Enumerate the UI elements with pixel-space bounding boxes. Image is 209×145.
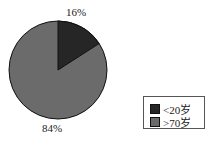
legend-swatch-icon <box>150 117 160 127</box>
legend-item-over-70: >70岁 <box>150 114 191 130</box>
legend-label: >70岁 <box>163 114 191 130</box>
legend-swatch-icon <box>150 104 160 114</box>
slice-label-16: 16% <box>66 6 86 18</box>
slice-label-84: 84% <box>42 122 62 134</box>
legend: <20岁 >70岁 <box>143 96 205 129</box>
